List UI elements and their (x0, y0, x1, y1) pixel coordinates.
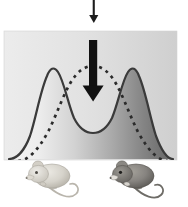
mouse-light-eye (35, 171, 38, 174)
mouse-dark-nose (110, 177, 112, 179)
disruptive-selection-figure: Disruptive selection on coat color Distr… (0, 0, 188, 207)
mouse-light-head (29, 165, 49, 182)
mouse-dark-eye (119, 171, 122, 174)
mouse-dark-front-paw (124, 182, 130, 186)
mouse-light-front-paw (40, 182, 46, 186)
mouse-dark-head (113, 165, 133, 182)
figure-canvas (0, 0, 188, 207)
mouse-light-nose (26, 177, 28, 179)
